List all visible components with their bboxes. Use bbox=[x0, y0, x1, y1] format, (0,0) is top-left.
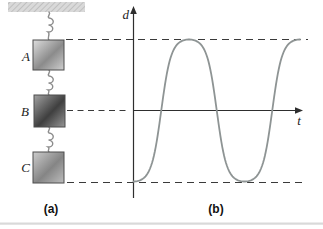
block-c-label: C bbox=[21, 160, 30, 175]
spring-A-to-B bbox=[48, 70, 53, 95]
block-c: C bbox=[21, 152, 64, 183]
ceiling bbox=[8, 2, 85, 12]
d-axis-arrow-icon bbox=[130, 6, 137, 14]
ceiling-hatch-texture bbox=[8, 2, 85, 12]
spring-B-to-C bbox=[48, 127, 53, 152]
spring-ceiling-to-A bbox=[48, 12, 53, 40]
d-axis-label: d bbox=[123, 7, 130, 22]
block-b-label: B bbox=[21, 104, 29, 119]
t-axis-label: t bbox=[297, 113, 301, 128]
block-b: B bbox=[21, 95, 65, 127]
figure-canvas: A B C d t (a) (b) bbox=[0, 0, 323, 229]
panel-b-label: (b) bbox=[208, 202, 223, 216]
block-a-label: A bbox=[21, 49, 30, 64]
panel-a-label: (a) bbox=[44, 202, 59, 216]
figure-container: A B C d t (a) (b) bbox=[0, 0, 323, 229]
page-rule bbox=[0, 223, 323, 225]
block-a: A bbox=[21, 40, 64, 70]
